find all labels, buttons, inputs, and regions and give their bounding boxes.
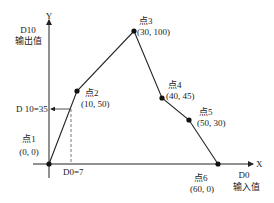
point-3-coord: (30, 100) [137,27,170,37]
point-2-coord: (10, 50) [81,99,110,109]
point-5-name: 点5 [199,107,213,117]
point-5-dot [186,117,191,122]
input-value-label: D0=7 [63,167,84,177]
point-4-dot [159,95,164,100]
point-1-coord: (0, 0) [19,147,39,157]
point-6-coord: (60, 0) [190,184,214,194]
x-axis-variable: D0 [239,170,250,180]
y-axis-description: 输出值 [15,36,42,46]
point-4-name: 点4 [168,80,182,90]
point-2-name: 点2 [85,88,99,98]
point-1-name: 点1 [22,134,36,144]
x-axis-description: 输入值 [233,182,260,192]
y-axis-letter: Y [46,11,53,21]
point-5-coord: (50, 30) [197,118,226,128]
point-2-dot [74,88,79,93]
point-1-dot [46,161,51,166]
point-3-dot [131,28,136,33]
output-value-label: D 10=35 [16,104,48,114]
x-axis-letter: X [256,159,263,169]
point-3-name: 点3 [139,16,153,26]
point-4-coord: (40, 45) [166,91,195,101]
point-6-name: 点6 [194,173,208,183]
point-6-dot [215,161,220,166]
y-axis-variable: D10 [20,25,36,35]
